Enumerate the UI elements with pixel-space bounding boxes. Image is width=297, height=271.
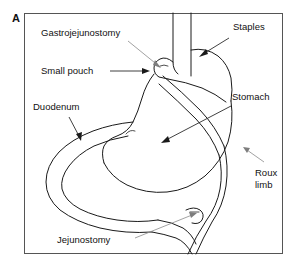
- figure-panel-a: A: [0, 0, 297, 271]
- jejunostomy-arrowhead: [189, 212, 197, 218]
- duodenum-inner-wall: [62, 136, 158, 222]
- jejunum-distal-inner: [158, 220, 196, 244]
- label-small-pouch: Small pouch: [41, 65, 93, 76]
- label-gastrojejunostomy-group: Gastrojejunostomy: [41, 27, 161, 68]
- label-roux-limb-line1: Roux: [255, 167, 277, 178]
- figure-border: [25, 14, 283, 254]
- duodenum-arrowhead: [76, 132, 82, 141]
- label-duodenum: Duodenum: [33, 101, 80, 112]
- label-staples-group: Staples: [199, 21, 265, 57]
- panel-letter-a: A: [12, 12, 20, 24]
- roux-limb-descending-inner: [188, 155, 221, 254]
- stomach-arrowhead: [161, 136, 170, 143]
- label-gastrojejunostomy: Gastrojejunostomy: [41, 27, 120, 38]
- stomach-greater-curvature: [104, 101, 232, 192]
- jejunostomy-tube-loop: [186, 208, 203, 224]
- stomach-fundus-outline: [191, 49, 232, 101]
- roux-limb-leader-line: [247, 150, 264, 162]
- label-staples: Staples: [233, 21, 265, 32]
- label-jejunostomy-group: Jejunostomy: [57, 212, 197, 245]
- duodenum-leader-line: [69, 117, 79, 136]
- label-stomach-group: Stomach: [161, 91, 270, 143]
- stomach-leader-line: [166, 106, 231, 140]
- staple-line: [168, 79, 226, 102]
- small-pouch-arrowhead: [142, 68, 150, 74]
- label-roux-limb-line2: limb: [255, 179, 272, 190]
- label-roux-limb-group: Roux limb: [243, 147, 277, 190]
- label-jejunostomy: Jejunostomy: [57, 234, 111, 245]
- label-duodenum-group: Duodenum: [33, 101, 82, 141]
- stomach-lesser-curvature: [103, 74, 155, 163]
- anatomy-group: [46, 13, 232, 254]
- roux-limb-arrowhead: [243, 147, 250, 153]
- pylorus-notch: [126, 130, 135, 134]
- jejunum-distal-outer: [152, 232, 192, 254]
- esophagus-left-wall: [173, 13, 178, 74]
- roux-limb-descending-outer: [196, 146, 227, 254]
- diagram-canvas: A: [0, 0, 297, 271]
- roux-limb-lower-wall: [159, 84, 219, 155]
- roux-limb-upper-wall: [163, 76, 224, 146]
- label-small-pouch-group: Small pouch: [41, 65, 150, 76]
- small-pouch-inner-fold: [160, 65, 168, 66]
- label-stomach: Stomach: [232, 91, 270, 102]
